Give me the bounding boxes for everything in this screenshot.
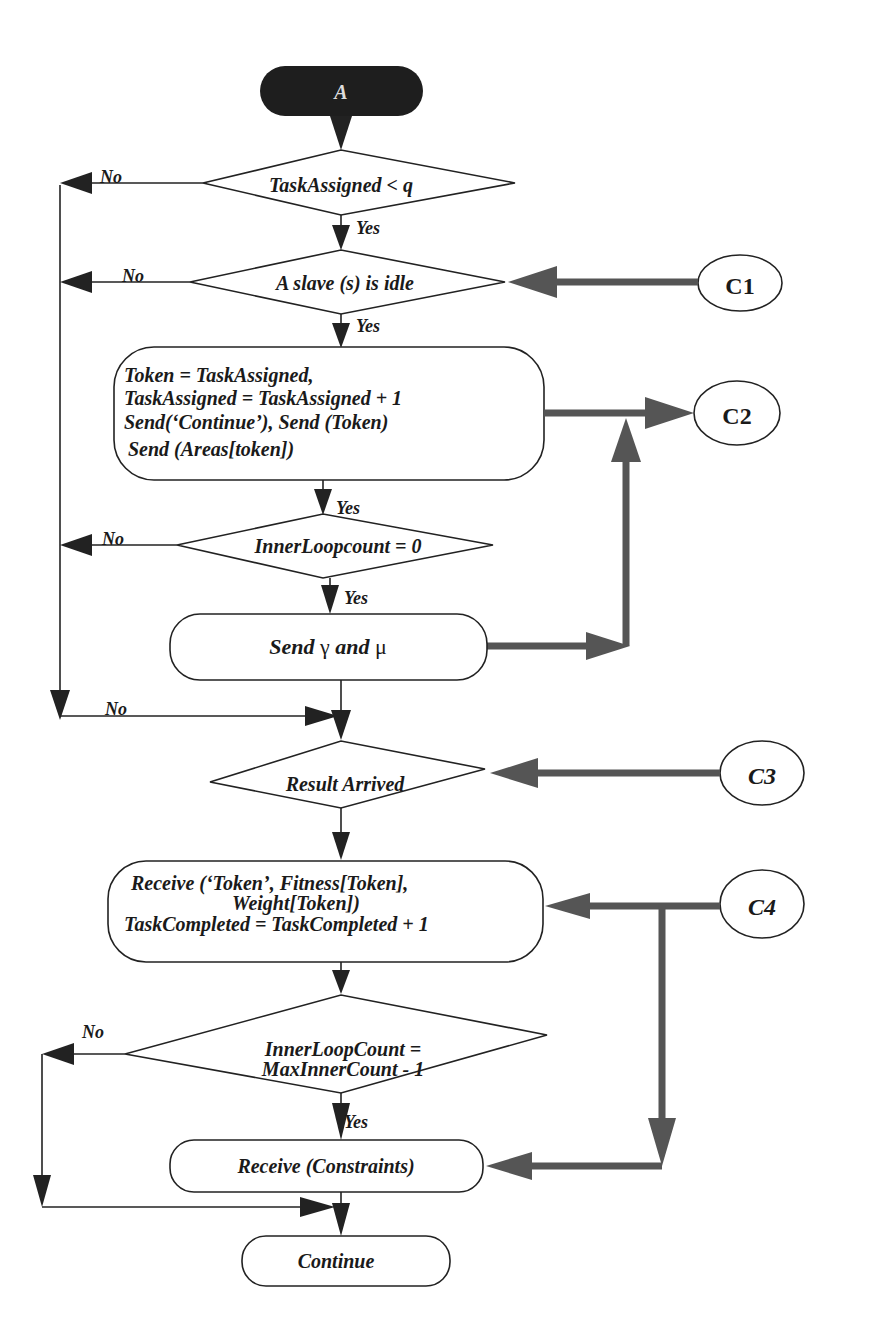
arrow-right-icon	[300, 1197, 335, 1217]
arrow-right-icon	[645, 397, 694, 429]
yes-label: Yes	[336, 498, 360, 518]
decision-result-arrived-label: Result Arrived	[285, 773, 406, 795]
arrow-down-icon	[332, 970, 350, 994]
arrow-down-icon	[331, 710, 351, 740]
arrow-down-icon	[332, 832, 350, 860]
yes-label: Yes	[356, 218, 380, 238]
decision-inner-loop-zero: InnerLoopcount = 0 No Yes	[60, 514, 493, 614]
yes-label: Yes	[344, 588, 368, 608]
terminal-continue: Continue	[242, 1236, 450, 1286]
flowchart: A TaskAssigned < q No Yes A slave (s) is…	[0, 0, 874, 1331]
no-label: No	[121, 266, 144, 286]
decision-slave-idle-label: A slave (s) is idle	[274, 272, 414, 295]
arrow-down-icon	[648, 1118, 676, 1166]
arrow-left-icon	[60, 271, 92, 293]
connector-c1: C1	[508, 255, 782, 311]
arrow-down-icon	[332, 1203, 350, 1236]
decision-inner-loop-max-line2: MaxInnerCount - 1	[261, 1058, 424, 1080]
decision-slave-idle: A slave (s) is idle No Yes	[60, 250, 505, 348]
arrow-down-icon	[33, 1175, 51, 1207]
connector-c3-label: C3	[748, 763, 776, 789]
process-receive-constraints: Receive (Constraints)	[170, 1140, 483, 1236]
no-label: No	[101, 529, 124, 549]
arrow-left-icon	[508, 266, 557, 298]
arrow-left-icon	[486, 1152, 532, 1180]
connector-c4-label: C4	[748, 894, 776, 920]
start-label: A	[332, 81, 347, 103]
process-assign-line3: Send(‘Continue’), Send (Token)	[124, 411, 388, 434]
arrow-down-icon	[332, 323, 350, 348]
process-assign-line4: Send (Areas[token])	[128, 438, 294, 461]
decision-task-assigned-label: TaskAssigned < q	[269, 174, 413, 197]
terminal-continue-label: Continue	[298, 1250, 375, 1272]
decision-result-arrived: Result Arrived	[210, 741, 485, 860]
arrow-down-icon	[332, 225, 350, 250]
decision-inner-loop-zero-label: InnerLoopcount = 0	[254, 535, 422, 558]
process-assign-line2: TaskAssigned = TaskAssigned + 1	[124, 387, 402, 410]
arrow-left-icon	[60, 534, 92, 556]
connector-c3: C3	[490, 741, 804, 805]
arrow-up-icon	[611, 418, 641, 462]
arrow-down-icon	[314, 489, 332, 515]
yes-label: Yes	[356, 316, 380, 336]
decision-task-assigned: TaskAssigned < q No Yes	[60, 150, 515, 250]
process-send-params-label: Send γ and μ	[269, 634, 387, 659]
arrow-left-icon	[60, 172, 92, 194]
arrow-down-icon	[330, 116, 352, 150]
process-assign-line1: Token = TaskAssigned,	[124, 364, 313, 387]
no-label: No	[104, 699, 127, 719]
process-send-params: Send γ and μ	[170, 614, 487, 740]
process-receive-constraints-label: Receive (Constraints)	[236, 1155, 414, 1178]
process-receive-line2: Weight[Token])	[232, 892, 360, 915]
arrow-left-icon	[545, 893, 590, 919]
connector-c2-label: C2	[722, 403, 751, 429]
yes-label: Yes	[344, 1112, 368, 1132]
process-assign-task: Token = TaskAssigned, TaskAssigned = Tas…	[114, 347, 544, 518]
process-receive-result: Receive (‘Token’, Fitness[Token], Weight…	[108, 861, 543, 994]
no-label: No	[81, 1022, 104, 1042]
arrow-down-icon	[321, 585, 339, 614]
arrow-left-icon	[490, 758, 538, 788]
process-receive-line3: TaskCompleted = TaskCompleted + 1	[124, 913, 429, 936]
start-terminal-a: A	[260, 66, 423, 150]
arrow-left-icon	[42, 1043, 74, 1065]
no-label: No	[99, 167, 122, 187]
connector-c1-label: C1	[725, 273, 754, 299]
